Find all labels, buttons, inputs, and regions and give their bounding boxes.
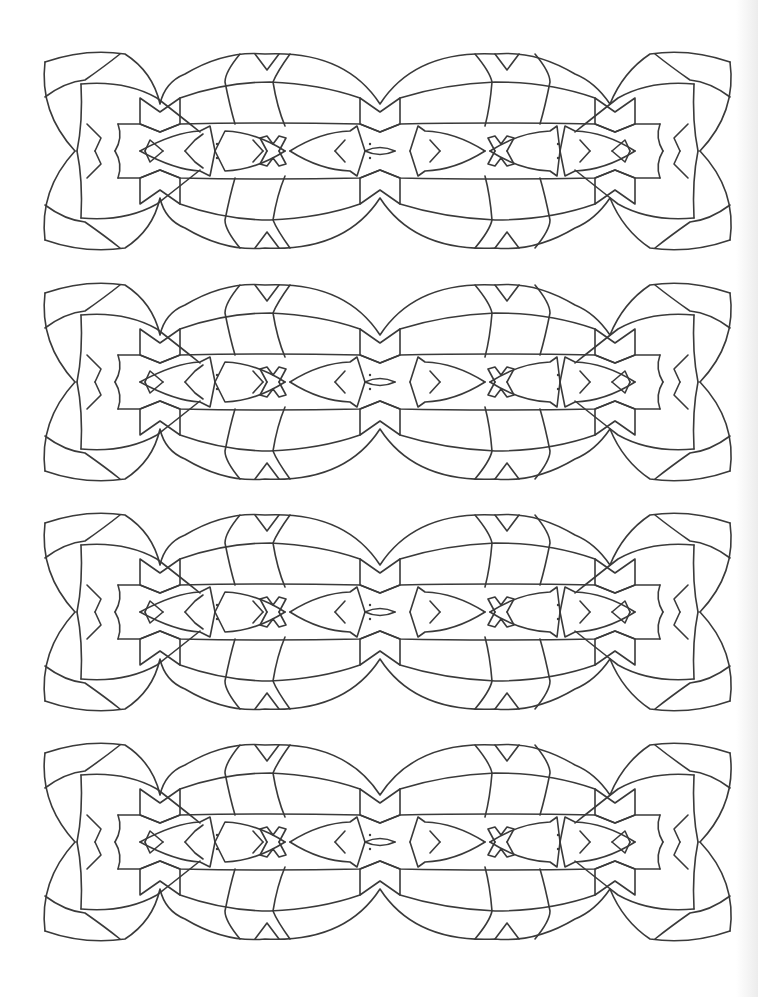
ornament-band-4 [44,743,731,941]
ornament-band-2 [44,283,731,481]
ornament-band-1 [44,52,731,250]
ornament-artwork [0,0,758,997]
coloring-page [0,0,758,997]
ornament-band-3 [44,513,731,711]
